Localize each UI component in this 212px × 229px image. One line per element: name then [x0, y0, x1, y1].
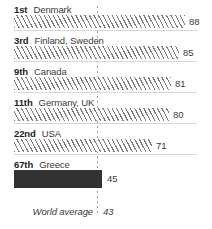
bar-canada	[14, 77, 171, 90]
row-separator	[14, 30, 197, 31]
bar-country: Germany, UK	[39, 97, 95, 108]
bar-rank: 1st	[14, 4, 27, 15]
bar-label-group: 1stDenmark	[14, 2, 71, 15]
bar-rank: 67th	[14, 159, 33, 170]
bar-country: Canada	[34, 66, 67, 77]
row-separator	[14, 123, 197, 124]
bar-greece	[14, 170, 102, 188]
row-separator	[14, 61, 197, 62]
bar-usa	[14, 139, 152, 152]
world-average-value: 43	[103, 206, 113, 217]
bar-rank: 22nd	[14, 128, 36, 139]
bar-country: Greece	[39, 159, 70, 170]
bar-label-group: 22ndUSA	[14, 126, 61, 139]
bar-label-group: 9thCanada	[14, 64, 67, 77]
row-separator	[14, 92, 197, 93]
bar-finland-sweden	[14, 46, 179, 59]
bar-country: Finland, Sweden	[34, 35, 103, 46]
bar-label-group: 11thGermany, UK	[14, 95, 94, 108]
bar-germany-uk	[14, 108, 169, 121]
bar-value: 88	[189, 15, 199, 28]
bar-rank: 11th	[14, 97, 33, 108]
bar-denmark	[14, 15, 185, 28]
bar-value: 85	[183, 46, 193, 59]
bar-label-group: 67thGreece	[14, 157, 70, 170]
bar-value: 80	[173, 108, 183, 121]
world-average-label: World average	[33, 206, 93, 217]
bar-value: 71	[156, 139, 166, 152]
bar-value: 81	[175, 77, 185, 90]
bar-rank: 9th	[14, 66, 28, 77]
bar-value: 45	[107, 172, 117, 185]
bar-country: USA	[42, 128, 61, 139]
bar-label-group: 3rdFinland, Sweden	[14, 33, 104, 46]
bar-rank: 3rd	[14, 35, 28, 46]
bar-country: Denmark	[33, 4, 71, 15]
horizontal-bar-chart: 1stDenmark 88 3rdFinland, Sweden 85 9thC…	[0, 0, 212, 229]
world-average-caption: World average 43	[0, 206, 212, 220]
row-separator	[14, 154, 197, 155]
